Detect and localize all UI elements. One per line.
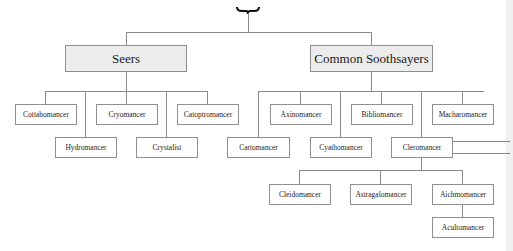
connector xyxy=(85,91,86,137)
node-label: Acultomancer xyxy=(442,223,484,232)
node-label: Cartomancer xyxy=(239,143,278,152)
connector xyxy=(299,170,300,184)
connector xyxy=(453,141,510,142)
node-label: Astragalomancer xyxy=(355,190,406,199)
connector xyxy=(462,170,463,184)
node-seers[interactable]: Seers xyxy=(65,45,187,72)
connector xyxy=(207,91,208,104)
node-aichmomancer[interactable]: Aichmomancer xyxy=(432,184,494,205)
connector xyxy=(258,91,484,92)
node-label: Cottabomancer xyxy=(23,110,69,119)
node-label: Bibliomancer xyxy=(362,110,403,119)
connector xyxy=(126,72,127,91)
node-cleidomancer[interactable]: Cleidomancer xyxy=(269,184,331,205)
connector xyxy=(381,91,382,104)
connector xyxy=(300,91,301,104)
connector xyxy=(126,32,127,45)
node-cleromancer[interactable]: Cleromancer xyxy=(391,137,453,158)
connector xyxy=(371,72,372,91)
node-cartomancer[interactable]: Cartomancer xyxy=(227,137,290,158)
connector xyxy=(299,170,463,171)
node-label: Seers xyxy=(112,51,140,67)
connector xyxy=(258,91,259,137)
connector xyxy=(453,153,510,154)
node-cottabomancer[interactable]: Cottabomancer xyxy=(15,104,77,125)
node-astragalomancer[interactable]: Astragalomancer xyxy=(350,184,412,205)
node-label: Crystalist xyxy=(153,143,182,152)
node-label: Hydromancer xyxy=(65,143,106,152)
node-cryomancer[interactable]: Cryomancer xyxy=(96,104,158,125)
node-label: Axinomancer xyxy=(281,110,322,119)
page-edge-strip xyxy=(506,0,513,251)
node-macharomancer[interactable]: Macharomancer xyxy=(432,104,494,125)
node-label: Cleromancer xyxy=(403,143,442,152)
connector xyxy=(380,170,381,184)
node-crystalist[interactable]: Crystalist xyxy=(136,137,198,158)
node-label: Cryomancer xyxy=(108,110,145,119)
node-label: Cleidomancer xyxy=(279,190,321,199)
node-label: Catoptromancer xyxy=(184,110,232,119)
node-bibliomancer[interactable]: Bibliomancer xyxy=(351,104,413,125)
connector xyxy=(166,91,167,137)
node-acultomancer[interactable]: Acultomancer xyxy=(432,217,494,238)
node-label: Common Soothsayers xyxy=(314,51,428,67)
node-axinomancer[interactable]: Axinomancer xyxy=(270,104,332,125)
connector xyxy=(126,32,372,33)
connector xyxy=(126,91,127,104)
connector xyxy=(340,91,341,137)
connector xyxy=(45,91,46,104)
node-common-soothsayers[interactable]: Common Soothsayers xyxy=(310,45,433,72)
connector xyxy=(421,91,422,137)
connector xyxy=(462,205,463,217)
node-label: Cyathomancer xyxy=(319,143,363,152)
connector xyxy=(421,158,422,170)
connector xyxy=(248,13,249,32)
node-label: Aichmomancer xyxy=(440,190,486,199)
connector xyxy=(371,32,372,45)
node-label: Macharomancer xyxy=(439,110,488,119)
node-hydromancer[interactable]: Hydromancer xyxy=(55,137,117,158)
node-cyathomancer[interactable]: Cyathomancer xyxy=(310,137,372,158)
connector xyxy=(462,91,463,104)
node-catoptromancer[interactable]: Catoptromancer xyxy=(177,104,239,125)
